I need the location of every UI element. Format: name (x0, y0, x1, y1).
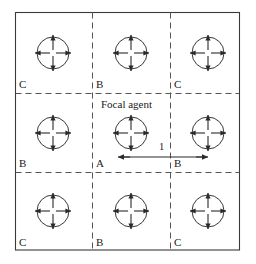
diagram-canvas (0, 0, 256, 264)
agent-r3c3 (190, 193, 226, 229)
label-r3c3: C (174, 237, 181, 248)
agent-r1c3 (190, 35, 226, 71)
agent-r3c2 (113, 193, 149, 229)
label-r2c1: B (19, 158, 26, 169)
agent-grid-figure: CBCBABCBC Focal agent 1 (0, 0, 256, 264)
label-r2c2: A (96, 158, 104, 169)
agent-r3c1 (35, 193, 71, 229)
label-r1c3: C (174, 79, 181, 90)
agent-r2c3 (190, 115, 226, 151)
label-r3c2: B (96, 237, 103, 248)
agent-r2c1 (35, 115, 71, 151)
agents-layer (35, 35, 226, 229)
agent-r1c2 (113, 35, 149, 71)
focal-agent-caption: Focal agent (101, 99, 152, 110)
agent-r1c1 (35, 35, 71, 71)
distance-value-label: 1 (159, 142, 164, 153)
label-r1c1: C (19, 79, 26, 90)
agent-r2c2 (113, 115, 149, 151)
label-r1c2: B (96, 79, 103, 90)
label-r3c1: C (19, 237, 26, 248)
label-r2c3: B (174, 158, 181, 169)
outer-frame (16, 13, 240, 251)
